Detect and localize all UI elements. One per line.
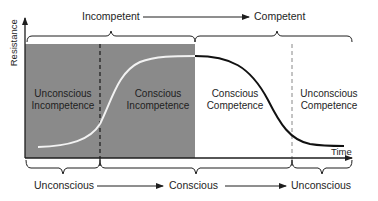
x-axis-label: Time [331,147,352,157]
quadrant-line1: Unconscious [27,88,99,100]
quadrant-line2: Incompetence [27,100,99,112]
y-axis-label: Resistance [9,13,19,73]
competence-diagram: Resistance Time Incompetent Competent Un… [0,0,378,201]
quadrant-line2: Competence [200,100,270,112]
quadrant-conscious-competence: Conscious Competence [200,88,270,112]
bottom-label-unconscious-right: Unconscious [291,180,351,191]
bottom-label-conscious: Conscious [169,180,218,191]
bottom-label-unconscious-left: Unconscious [34,180,94,191]
top-brace-incompetent [27,31,195,42]
bottom-brace-unconscious-right [292,160,352,174]
quadrant-line1: Unconscious [294,88,364,100]
quadrant-conscious-incompetence: Conscious Incompetence [118,88,198,112]
quadrant-line2: Incompetence [118,100,198,112]
quadrant-line2: Competence [294,100,364,112]
quadrant-unconscious-incompetence: Unconscious Incompetence [27,88,99,112]
top-label-competent: Competent [254,11,305,22]
top-label-incompetent: Incompetent [82,11,140,22]
quadrant-line1: Conscious [118,88,198,100]
top-brace-competent [195,31,352,42]
quadrant-unconscious-competence: Unconscious Competence [294,88,364,112]
bottom-brace-conscious [100,160,292,174]
quadrant-line1: Conscious [200,88,270,100]
bottom-brace-unconscious-left [26,160,100,174]
